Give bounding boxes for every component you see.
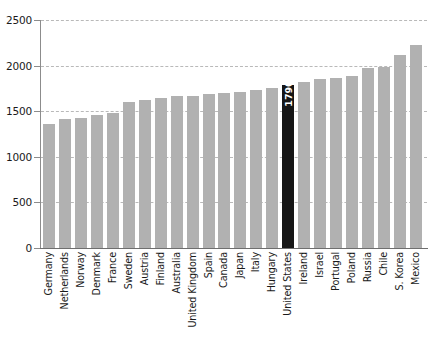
x-axis-label-text: Russia: [363, 252, 373, 282]
x-axis-label-poland: Poland: [346, 250, 358, 338]
bar-united-states: 1790: [282, 85, 294, 248]
bar-chart: 2500 2000 1500 1000 500 0 1790 GermanyNe…: [0, 0, 430, 341]
x-axis-label-australia: Australia: [171, 250, 183, 338]
x-axis-label-sweden: Sweden: [123, 250, 135, 338]
bar-israel: [314, 79, 326, 248]
bar-chile: [378, 67, 390, 248]
bar-norway: [75, 118, 87, 248]
bar-france: [107, 113, 119, 248]
x-axis-label-finland: Finland: [155, 250, 167, 338]
y-tick-label-2000: 2000: [1, 61, 32, 71]
bar-ireland: [298, 82, 310, 248]
bar-mexico: [410, 45, 422, 248]
x-axis-label-hungary: Hungary: [266, 250, 278, 338]
x-axis-label-text: France: [108, 252, 118, 283]
bar-canada: [218, 93, 230, 248]
x-axis-label-text: Israel: [315, 252, 325, 278]
x-axis-label-text: United Kingdom: [188, 252, 198, 328]
x-axis-label-denmark: Denmark: [91, 250, 103, 338]
bar-s-korea: [394, 55, 406, 248]
x-axis-label-japan: Japan: [234, 250, 246, 338]
bars-layer: 1790: [41, 20, 427, 248]
x-axis-label-netherlands: Netherlands: [59, 250, 71, 338]
x-axis-label-text: Denmark: [92, 252, 102, 295]
x-axis-label-ireland: Ireland: [298, 250, 310, 338]
bar-finland: [155, 98, 167, 248]
bar-poland: [346, 76, 358, 248]
y-tick-label-0: 0: [1, 243, 32, 253]
x-axis-label-mexico: Mexico: [410, 250, 422, 338]
x-axis-line: [40, 248, 428, 249]
bar-spain: [203, 94, 215, 248]
y-tick-label-1000: 1000: [1, 152, 32, 162]
x-axis-label-text: Mexico: [411, 252, 421, 285]
x-axis-label-text: Spain: [204, 252, 214, 278]
x-axis-label-text: Poland: [347, 252, 357, 283]
x-axis-label-text: Norway: [76, 252, 86, 288]
x-axis-label-italy: Italy: [250, 250, 262, 338]
x-axis-label-russia: Russia: [362, 250, 374, 338]
x-axis-label-israel: Israel: [314, 250, 326, 338]
x-axis-label-text: Germany: [44, 252, 54, 295]
bar-germany: [43, 124, 55, 248]
x-axis-label-text: Italy: [251, 252, 261, 272]
bar-austria: [139, 100, 151, 248]
bar-hungary: [266, 88, 278, 248]
x-axis-label-canada: Canada: [218, 250, 230, 338]
bar-portugal: [330, 78, 342, 248]
bar-italy: [250, 90, 262, 248]
x-axis-label-united-states: United States: [282, 250, 294, 338]
x-axis-label-s-korea: S. Korea: [394, 250, 406, 338]
y-tick-label-2500: 2500: [1, 15, 32, 25]
x-axis-label-text: Austria: [140, 252, 150, 285]
bar-australia: [171, 96, 183, 248]
bar-denmark: [91, 115, 103, 248]
y-tick-label-1500: 1500: [1, 106, 32, 116]
x-axis-label-germany: Germany: [43, 250, 55, 338]
x-axis-label-text: Finland: [156, 252, 166, 286]
bar-russia: [362, 68, 374, 248]
x-axis-label-text: Netherlands: [60, 252, 70, 309]
x-axis-labels: GermanyNetherlandsNorwayDenmarkFranceSwe…: [41, 250, 427, 341]
bar-united-kingdom: [187, 96, 199, 248]
x-axis-label-text: Sweden: [124, 252, 134, 289]
x-axis-label-united-kingdom: United Kingdom: [187, 250, 199, 338]
x-axis-label-text: Canada: [219, 252, 229, 288]
x-axis-label-portugal: Portugal: [330, 250, 342, 338]
x-axis-label-spain: Spain: [203, 250, 215, 338]
y-tick-label-500: 500: [1, 197, 32, 207]
x-axis-label-text: United States: [283, 252, 293, 316]
bar-netherlands: [59, 119, 71, 248]
x-axis-label-france: France: [107, 250, 119, 338]
x-axis-label-text: Chile: [379, 252, 389, 276]
bar-value-label-highlight: 1790: [283, 80, 294, 106]
x-axis-label-chile: Chile: [378, 250, 390, 338]
x-axis-label-norway: Norway: [75, 250, 87, 338]
x-axis-label-text: Ireland: [299, 252, 309, 284]
x-axis-label-austria: Austria: [139, 250, 151, 338]
x-axis-label-text: Hungary: [267, 252, 277, 292]
x-axis-label-text: Australia: [172, 252, 182, 294]
bar-japan: [234, 92, 246, 248]
x-axis-label-text: Japan: [235, 252, 245, 278]
x-axis-label-text: Portugal: [331, 252, 341, 291]
x-axis-label-text: S. Korea: [395, 252, 405, 291]
y-axis-labels: 2500 2000 1500 1000 500 0: [0, 0, 32, 341]
bar-sweden: [123, 102, 135, 248]
